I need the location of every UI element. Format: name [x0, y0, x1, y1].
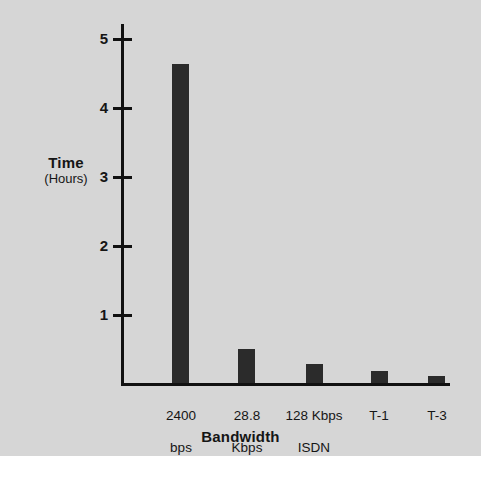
- y-tick-1: [113, 314, 132, 317]
- chart-page: 5 4 3 2 1 2400 bps 28.8 Kbps 128 Kbps IS…: [0, 0, 481, 480]
- y-axis-title: Time (Hours): [28, 155, 104, 186]
- x-category-line1: 28.8: [234, 408, 260, 423]
- x-category-line1: 128 Kbps: [285, 408, 342, 423]
- plot-area: 5 4 3 2 1 2400 bps 28.8 Kbps 128 Kbps IS…: [0, 0, 481, 456]
- x-category-line1: T-3: [427, 408, 447, 423]
- x-axis-line: [121, 383, 450, 386]
- y-axis-title-units: (Hours): [28, 171, 104, 186]
- bar-t-1: [371, 371, 388, 383]
- x-axis-title: Bandwidth: [0, 428, 481, 445]
- bar-28-8-kbps: [238, 349, 255, 383]
- y-tick-label-4: 4: [82, 100, 108, 115]
- x-category-line1: T-1: [369, 408, 389, 423]
- y-tick-5: [113, 38, 132, 41]
- bar-t-3: [428, 376, 445, 383]
- y-tick-label-1: 1: [82, 307, 108, 322]
- y-axis-line: [121, 24, 124, 386]
- y-tick-3: [113, 176, 132, 179]
- bar-2400-bps: [172, 64, 189, 383]
- x-category-line1: 2400: [166, 408, 196, 423]
- bar-128-kbps-isdn: [306, 364, 323, 383]
- y-axis-title-main: Time: [28, 155, 104, 171]
- x-category-label-t-3: T-3: [398, 392, 476, 424]
- y-tick-label-2: 2: [82, 238, 108, 253]
- y-tick-2: [113, 245, 132, 248]
- y-tick-label-5: 5: [82, 31, 108, 46]
- y-tick-4: [113, 107, 132, 110]
